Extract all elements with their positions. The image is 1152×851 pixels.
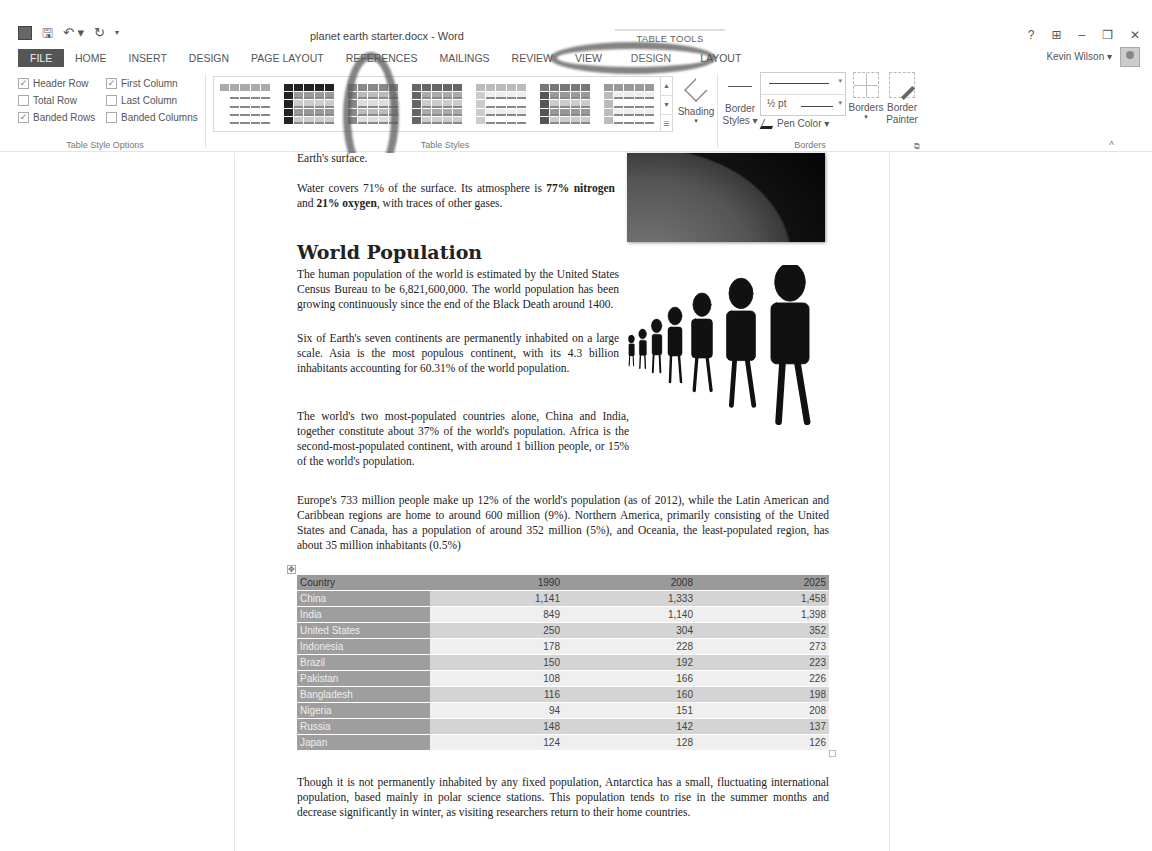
header-cell[interactable]: Country — [297, 575, 430, 591]
value-cell[interactable]: 178 — [430, 639, 563, 655]
collapse-ribbon-icon[interactable]: ^ — [1109, 140, 1114, 151]
value-cell[interactable]: 223 — [696, 655, 829, 671]
tab-table-design[interactable]: DESIGN — [613, 49, 689, 67]
close-icon[interactable]: ✕ — [1130, 28, 1140, 42]
word-app-icon[interactable] — [18, 26, 32, 40]
value-cell[interactable]: 94 — [430, 703, 563, 719]
shading-button[interactable]: Shading ▾ — [676, 76, 716, 125]
country-cell[interactable]: Japan — [297, 735, 430, 751]
earth-image[interactable] — [627, 153, 825, 242]
group-label-table-styles: Table Styles — [380, 140, 510, 150]
tab-insert[interactable]: INSERT — [118, 49, 178, 67]
border-painter-button[interactable]: Border Painter — [884, 72, 920, 126]
tab-file[interactable]: FILE — [18, 49, 64, 67]
table-style-light[interactable] — [476, 84, 526, 124]
tab-review[interactable]: REVIEW — [501, 49, 564, 67]
gallery-more-icon[interactable]: ☰ — [661, 115, 672, 133]
redo-icon[interactable]: ↻ — [94, 26, 105, 40]
country-cell[interactable]: Pakistan — [297, 671, 430, 687]
table-style-plain[interactable] — [220, 84, 270, 124]
value-cell[interactable]: 1,141 — [430, 591, 563, 607]
line-style-dropdown[interactable]: ▾ — [761, 73, 845, 95]
value-cell[interactable]: 150 — [430, 655, 563, 671]
customize-qat-icon[interactable]: ▾ — [115, 26, 119, 40]
borders-button[interactable]: Borders ▾ — [848, 72, 884, 121]
gallery-scroll-up-icon[interactable]: ▲ — [661, 77, 672, 96]
avatar[interactable] — [1120, 47, 1140, 67]
value-cell[interactable]: 116 — [430, 687, 563, 703]
document-page[interactable]: Earth's surface. Water covers 71% of the… — [234, 153, 890, 851]
tab-mailings[interactable]: MAILINGS — [428, 49, 500, 67]
value-cell[interactable]: 1,398 — [696, 607, 829, 623]
table-resize-handle[interactable] — [829, 750, 836, 757]
pen-color-button[interactable]: Pen Color ▾ — [762, 118, 829, 129]
value-cell[interactable]: 126 — [696, 735, 829, 751]
country-cell[interactable]: Brazil — [297, 655, 430, 671]
header-cell[interactable]: 2008 — [563, 575, 696, 591]
table-style-grid-dark[interactable] — [412, 84, 462, 124]
value-cell[interactable]: 1,458 — [696, 591, 829, 607]
country-cell[interactable]: United States — [297, 623, 430, 639]
value-cell[interactable]: 108 — [430, 671, 563, 687]
first-column-checkbox[interactable]: ✓First Column — [106, 78, 206, 89]
value-cell[interactable]: 166 — [563, 671, 696, 687]
ribbon-display-options-icon[interactable]: ⊞ — [1051, 28, 1061, 42]
header-cell[interactable]: 2025 — [696, 575, 829, 591]
minimize-icon[interactable]: – — [1078, 28, 1085, 42]
country-cell[interactable]: Indonesia — [297, 639, 430, 655]
table-style-light-first-col[interactable] — [604, 84, 654, 124]
last-column-checkbox[interactable]: Last Column — [106, 95, 206, 106]
value-cell[interactable]: 148 — [430, 719, 563, 735]
banded-columns-checkbox[interactable]: Banded Columns — [106, 112, 206, 123]
table-move-handle-icon[interactable]: ✥ — [287, 565, 296, 574]
table-style-dark[interactable] — [284, 84, 334, 124]
undo-icon[interactable]: ↶ ▾ — [63, 26, 84, 40]
value-cell[interactable]: 192 — [563, 655, 696, 671]
table-style-grid-medium[interactable] — [348, 84, 398, 124]
tab-table-layout[interactable]: LAYOUT — [689, 49, 752, 67]
population-table[interactable]: Country 1990 2008 2025 China1,1411,3331,… — [297, 575, 829, 751]
border-styles-button[interactable]: Border Styles ▾ — [720, 76, 760, 127]
line-weight-dropdown[interactable]: ½ pt▾ — [761, 95, 845, 117]
help-icon[interactable]: ? — [1028, 28, 1035, 42]
value-cell[interactable]: 849 — [430, 607, 563, 623]
tab-page-layout[interactable]: PAGE LAYOUT — [240, 49, 335, 67]
country-cell[interactable]: Bangladesh — [297, 687, 430, 703]
borders-dialog-launcher-icon[interactable]: ⧉ — [914, 142, 920, 152]
value-cell[interactable]: 160 — [563, 687, 696, 703]
restore-icon[interactable]: ❐ — [1102, 28, 1113, 42]
country-cell[interactable]: Nigeria — [297, 703, 430, 719]
table-style-grid-colorful[interactable] — [540, 84, 590, 124]
value-cell[interactable]: 1,140 — [563, 607, 696, 623]
user-account[interactable]: Kevin Wilson ▾ — [1046, 51, 1112, 62]
value-cell[interactable]: 352 — [696, 623, 829, 639]
country-cell[interactable]: India — [297, 607, 430, 623]
country-cell[interactable]: China — [297, 591, 430, 607]
value-cell[interactable]: 137 — [696, 719, 829, 735]
value-cell[interactable]: 208 — [696, 703, 829, 719]
window-controls: ? ⊞ – ❐ ✕ — [1028, 28, 1140, 42]
country-cell[interactable]: Russia — [297, 719, 430, 735]
tab-home[interactable]: HOME — [64, 49, 118, 67]
header-row-checkbox[interactable]: ✓Header Row — [18, 78, 106, 89]
value-cell[interactable]: 142 — [563, 719, 696, 735]
header-cell[interactable]: 1990 — [430, 575, 563, 591]
value-cell[interactable]: 250 — [430, 623, 563, 639]
value-cell[interactable]: 151 — [563, 703, 696, 719]
tab-view[interactable]: VIEW — [564, 49, 613, 67]
tab-references[interactable]: REFERENCES — [335, 49, 429, 67]
tab-design[interactable]: DESIGN — [178, 49, 240, 67]
gallery-scroll-down-icon[interactable]: ▼ — [661, 96, 672, 115]
banded-rows-checkbox[interactable]: ✓Banded Rows — [18, 112, 106, 123]
total-row-checkbox[interactable]: Total Row — [18, 95, 106, 106]
value-cell[interactable]: 198 — [696, 687, 829, 703]
value-cell[interactable]: 128 — [563, 735, 696, 751]
value-cell[interactable]: 304 — [563, 623, 696, 639]
value-cell[interactable]: 1,333 — [563, 591, 696, 607]
value-cell[interactable]: 124 — [430, 735, 563, 751]
value-cell[interactable]: 228 — [563, 639, 696, 655]
value-cell[interactable]: 273 — [696, 639, 829, 655]
people-growth-image[interactable] — [623, 265, 833, 465]
save-icon[interactable]: 🖫 — [42, 26, 53, 40]
value-cell[interactable]: 226 — [696, 671, 829, 687]
